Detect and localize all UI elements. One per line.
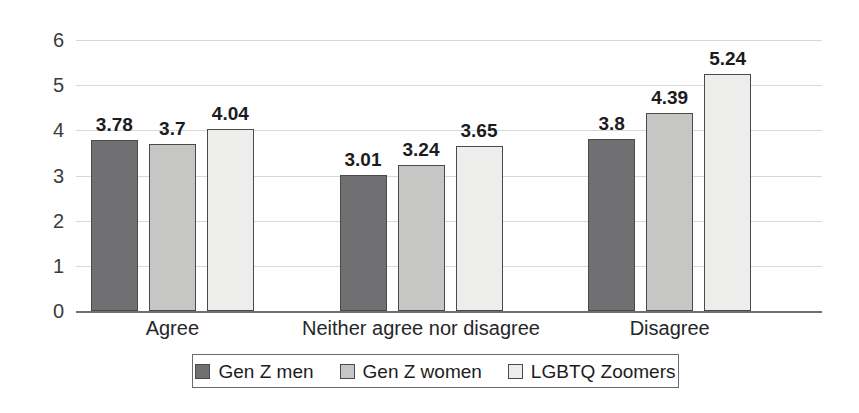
bar bbox=[704, 74, 751, 311]
y-axis-tick-label: 6 bbox=[53, 30, 64, 50]
bar-value-label: 3.24 bbox=[403, 140, 440, 159]
x-axis-line bbox=[76, 311, 822, 313]
bar-value-label: 4.04 bbox=[212, 104, 249, 123]
bar bbox=[207, 129, 254, 311]
legend-item[interactable]: Gen Z women bbox=[340, 362, 482, 381]
legend-label: Gen Z men bbox=[218, 362, 313, 381]
bar-value-label: 4.39 bbox=[651, 88, 688, 107]
chart-page: 01234563.783.74.043.013.243.653.84.395.2… bbox=[0, 0, 859, 413]
legend-swatch-icon bbox=[508, 364, 523, 379]
y-axis-tick-label: 0 bbox=[53, 301, 64, 321]
bar bbox=[91, 140, 138, 311]
legend-item[interactable]: Gen Z men bbox=[195, 362, 313, 381]
bar bbox=[456, 146, 503, 311]
bar-value-label: 3.01 bbox=[345, 150, 382, 169]
y-axis-tick-label: 5 bbox=[53, 75, 64, 95]
x-axis-category-label: Agree bbox=[146, 318, 199, 338]
bar bbox=[149, 144, 196, 311]
y-axis-tick-label: 2 bbox=[53, 211, 64, 231]
legend-label: LGBTQ Zoomers bbox=[531, 362, 676, 381]
x-axis-category-label: Neither agree nor disagree bbox=[302, 318, 540, 338]
legend-item[interactable]: LGBTQ Zoomers bbox=[508, 362, 676, 381]
bar-value-label: 3.65 bbox=[461, 121, 498, 140]
y-axis-tick-label: 3 bbox=[53, 166, 64, 186]
bar bbox=[588, 139, 635, 311]
bar-value-label: 5.24 bbox=[709, 49, 746, 68]
y-axis-tick-label: 4 bbox=[53, 120, 64, 140]
gridline bbox=[76, 40, 822, 41]
legend-label: Gen Z women bbox=[363, 362, 482, 381]
legend-swatch-icon bbox=[195, 364, 210, 379]
bar bbox=[340, 175, 387, 311]
chart-legend: Gen Z menGen Z womenLGBTQ Zoomers bbox=[192, 354, 679, 388]
bar-value-label: 3.78 bbox=[96, 115, 133, 134]
plot-area: 01234563.783.74.043.013.243.653.84.395.2… bbox=[76, 40, 822, 311]
bar-value-label: 3.7 bbox=[159, 119, 185, 138]
bar bbox=[646, 113, 693, 311]
bar bbox=[398, 165, 445, 311]
legend-swatch-icon bbox=[340, 364, 355, 379]
y-axis-tick-label: 1 bbox=[53, 256, 64, 276]
bar-value-label: 3.8 bbox=[598, 114, 624, 133]
x-axis-category-label: Disagree bbox=[630, 318, 710, 338]
